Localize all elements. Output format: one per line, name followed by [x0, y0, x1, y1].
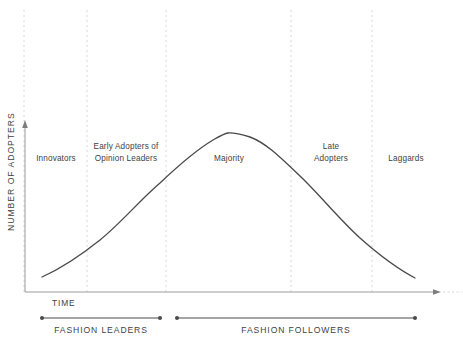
- fashion-leaders-bracket-end-dot: [158, 316, 162, 320]
- y-axis: [22, 120, 28, 292]
- segment-label-early-adopters-line1: Early Adopters of: [94, 142, 159, 151]
- x-axis-arrow-icon: [433, 289, 441, 295]
- fashion-leaders-bracket-start-dot: [40, 316, 44, 320]
- fashion-adoption-curve-chart: NUMBER OF ADOPTERS TIME Innovators Early…: [0, 0, 463, 352]
- bracket-fashion-leaders: FASHION LEADERS: [40, 316, 162, 335]
- segment-label-late-adopters-line2: Adopters: [314, 154, 348, 163]
- fashion-followers-bracket-end-dot: [413, 316, 417, 320]
- y-axis-title: NUMBER OF ADOPTERS: [6, 112, 16, 231]
- x-axis: [25, 289, 462, 295]
- bracket-fashion-followers: FASHION FOLLOWERS: [175, 316, 417, 335]
- adoption-curve-diagram: NUMBER OF ADOPTERS TIME Innovators Early…: [0, 0, 463, 352]
- segment-label-laggards: Laggards: [388, 154, 423, 163]
- fashion-followers-bracket-start-dot: [175, 316, 179, 320]
- fashion-leaders-label: FASHION LEADERS: [54, 325, 148, 335]
- segment-label-innovators: Innovators: [36, 154, 76, 163]
- segment-label-early-adopters-line2: Opinion Leaders: [95, 154, 157, 163]
- segment-label-late-adopters-line1: Late: [323, 142, 340, 151]
- x-axis-title: TIME: [52, 298, 76, 308]
- y-axis-arrow-icon: [22, 120, 28, 128]
- segment-label-majority: Majority: [214, 154, 245, 163]
- fashion-followers-label: FASHION FOLLOWERS: [241, 325, 350, 335]
